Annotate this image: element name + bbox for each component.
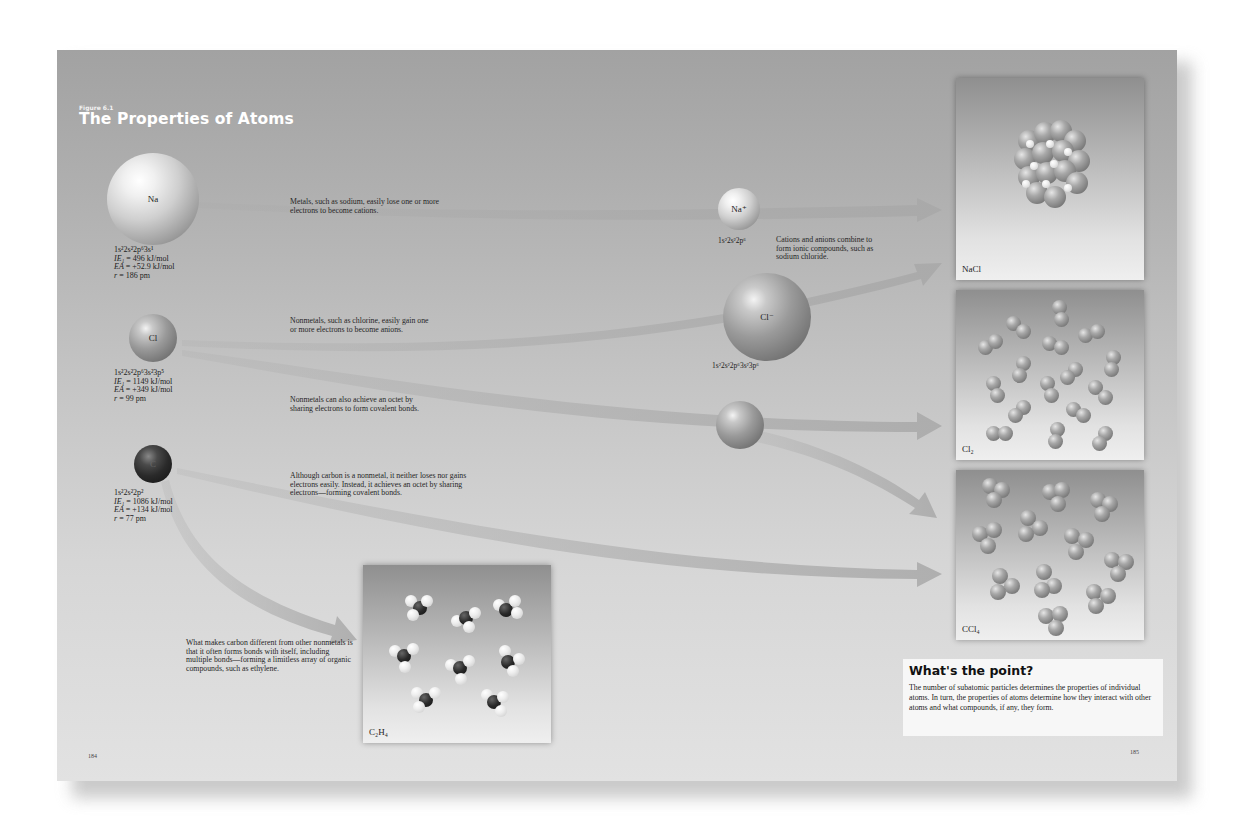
chlorine-symbol: Cl [149, 333, 158, 343]
sodium-radius: = 186 pm [117, 271, 150, 280]
whats-the-point-box: What's the point? The number of subatomi… [903, 659, 1163, 736]
carbon-symbol: C [150, 459, 156, 469]
arrow-cl-to-ccl4 [747, 428, 937, 518]
point-text: The number of subatomic particles determ… [909, 683, 1159, 713]
nonmetals-covalent-description: Nonmetals can also achieve an octet by s… [290, 396, 430, 413]
chloride-ion-sphere: Cl⁻ [723, 273, 811, 361]
sodium-symbol: Na [148, 194, 159, 204]
sodium-ion-symbol: Na⁺ [731, 204, 747, 214]
chloride-ion-symbol: Cl⁻ [760, 312, 774, 322]
nacl-panel: NaCl [956, 78, 1144, 280]
figure-title: The Properties of Atoms [79, 110, 294, 128]
carbon-radius: = 77 pm [117, 514, 146, 523]
page-number-left: 184 [88, 753, 97, 759]
nacl-caption: NaCl [962, 264, 981, 274]
carbon-covalent-description: Although carbon is a nonmetal, it neithe… [290, 472, 472, 498]
metals-description: Metals, such as sodium, easily lose one … [290, 198, 440, 215]
c2h4-caption: C₂H₄ [369, 727, 388, 737]
chlorine-properties: 1s²2s²2p⁶3s²3p⁵ IE₁ = 1149 kJ/mol EA = +… [114, 369, 173, 403]
sodium-atom-sphere: Na [107, 153, 199, 245]
ccl4-caption: CCl₄ [962, 624, 980, 634]
chlorine-radius: = 99 pm [117, 394, 146, 403]
chlorine-covalent-sphere [716, 401, 764, 449]
nonmetals-anion-description: Nonmetals, such as chlorine, easily gain… [290, 317, 430, 334]
cl2-caption: Cl₂ [962, 444, 974, 454]
ionic-compound-note: Cations and anions combine to form ionic… [776, 236, 886, 262]
ccl4-panel: CCl₄ [956, 470, 1144, 640]
chlorine-atom-sphere: Cl [129, 314, 177, 362]
point-title: What's the point? [909, 663, 1033, 678]
carbon-organic-description: What makes carbon different from other n… [186, 639, 356, 673]
chloride-ion-config: 1s²2s²2p⁶3s²3p⁶ [712, 362, 759, 371]
cl2-panel: Cl₂ [956, 290, 1144, 460]
textbook-spread: Figure 6.1 The Properties of Atoms Na 1s… [57, 50, 1177, 781]
sodium-ion-sphere: Na⁺ [718, 188, 760, 230]
page-number-right: 185 [1130, 749, 1139, 755]
c2h4-panel: C₂H₄ [363, 565, 551, 743]
sodium-properties: 1s²2s²2p⁶3s¹ IE₁ = 496 kJ/mol EA = +52.9… [114, 246, 175, 280]
arrow-cl-to-nacl [182, 263, 942, 351]
sodium-ion-config: 1s²2s²2p⁶ [718, 237, 746, 246]
carbon-atom-sphere: C [134, 445, 172, 483]
carbon-properties: 1s²2s²2p² IE₁ = 1086 kJ/mol EA = +134 kJ… [114, 489, 173, 523]
